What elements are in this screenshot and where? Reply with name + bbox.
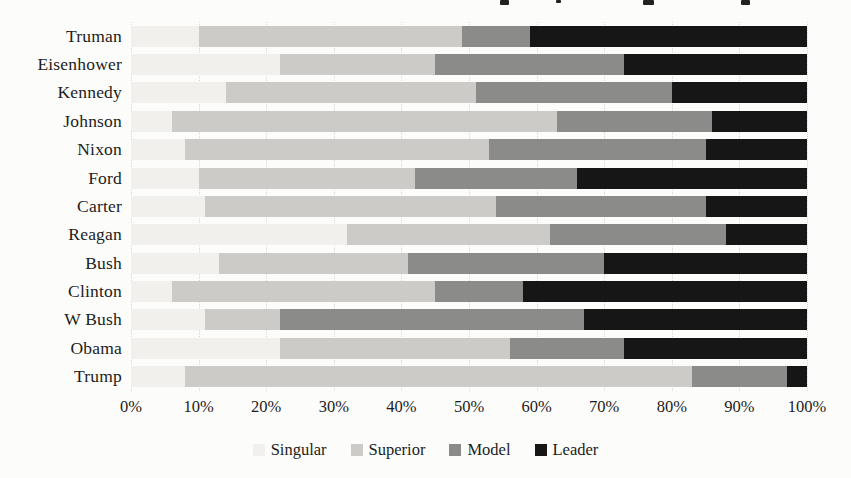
bar-segment-model-w-bush bbox=[280, 309, 584, 330]
bar-segment-leader-kennedy bbox=[672, 82, 807, 103]
bar-segment-superior-clinton bbox=[172, 281, 436, 302]
bar-row-eisenhower bbox=[131, 50, 807, 78]
bar-row-johnson bbox=[131, 107, 807, 135]
bar-segment-superior-trump bbox=[185, 366, 692, 387]
category-label-eisenhower: Eisenhower bbox=[0, 50, 122, 78]
legend-label-model: Model bbox=[467, 440, 510, 460]
bar-segment-model-clinton bbox=[435, 281, 523, 302]
bar-row-obama bbox=[131, 334, 807, 362]
bar-segment-singular-nixon bbox=[131, 139, 185, 160]
x-tick-label-40: 40% bbox=[386, 397, 416, 417]
bar-segment-model-carter bbox=[496, 196, 706, 217]
stacked-bar-johnson bbox=[131, 111, 807, 132]
category-label-bush: Bush bbox=[0, 249, 122, 277]
bar-segment-model-reagan bbox=[550, 224, 726, 245]
category-label-reagan: Reagan bbox=[0, 221, 122, 249]
bar-segment-superior-ford bbox=[199, 168, 415, 189]
stacked-bar-eisenhower bbox=[131, 54, 807, 75]
bar-segment-superior-truman bbox=[199, 26, 463, 47]
bar-segment-leader-clinton bbox=[523, 281, 807, 302]
bar-segment-singular-w-bush bbox=[131, 309, 205, 330]
legend-item-singular: Singular bbox=[253, 440, 327, 460]
category-label-johnson: Johnson bbox=[0, 107, 122, 135]
bar-segment-singular-carter bbox=[131, 196, 205, 217]
stacked-bar-obama bbox=[131, 338, 807, 359]
legend-swatch-model bbox=[449, 444, 461, 456]
bar-segment-leader-obama bbox=[624, 338, 807, 359]
bar-segment-superior-eisenhower bbox=[280, 54, 435, 75]
x-tick-label-20: 20% bbox=[251, 397, 281, 417]
category-label-w-bush: W Bush bbox=[0, 306, 122, 334]
stacked-bar-chart: TrumanEisenhowerKennedyJohnsonNixonFordC… bbox=[0, 0, 851, 478]
stacked-bar-carter bbox=[131, 196, 807, 217]
stacked-bar-kennedy bbox=[131, 82, 807, 103]
bar-segment-singular-obama bbox=[131, 338, 280, 359]
bar-segment-singular-bush bbox=[131, 253, 219, 274]
bar-segment-singular-reagan bbox=[131, 224, 347, 245]
cropped-title-glyph bbox=[643, 0, 654, 5]
bar-segment-model-johnson bbox=[557, 111, 712, 132]
bar-segment-leader-nixon bbox=[706, 139, 807, 160]
gridline-100 bbox=[807, 22, 808, 391]
cropped-title-glyph bbox=[500, 0, 509, 5]
category-axis-labels: TrumanEisenhowerKennedyJohnsonNixonFordC… bbox=[0, 22, 122, 391]
bar-segment-singular-eisenhower bbox=[131, 54, 280, 75]
category-label-obama: Obama bbox=[0, 334, 122, 362]
bar-segment-leader-trump bbox=[787, 366, 807, 387]
bar-row-w-bush bbox=[131, 306, 807, 334]
legend-label-superior: Superior bbox=[369, 440, 426, 460]
x-tick-label-30: 30% bbox=[319, 397, 349, 417]
bar-segment-superior-w-bush bbox=[205, 309, 279, 330]
x-tick-label-60: 60% bbox=[521, 397, 551, 417]
stacked-bar-w-bush bbox=[131, 309, 807, 330]
bar-segment-superior-carter bbox=[205, 196, 496, 217]
legend-item-superior: Superior bbox=[351, 440, 426, 460]
x-tick-label-50: 50% bbox=[454, 397, 484, 417]
bar-row-reagan bbox=[131, 221, 807, 249]
bar-segment-leader-w-bush bbox=[584, 309, 807, 330]
legend-label-singular: Singular bbox=[271, 440, 327, 460]
bar-row-trump bbox=[131, 363, 807, 391]
stacked-bar-trump bbox=[131, 366, 807, 387]
legend: SingularSuperiorModelLeader bbox=[0, 438, 851, 462]
cropped-title-remnant bbox=[0, 0, 851, 6]
bar-segment-superior-nixon bbox=[185, 139, 489, 160]
bar-row-clinton bbox=[131, 277, 807, 305]
bar-segment-leader-reagan bbox=[726, 224, 807, 245]
legend-swatch-singular bbox=[253, 444, 265, 456]
x-tick-label-10: 10% bbox=[183, 397, 213, 417]
bar-row-truman bbox=[131, 22, 807, 50]
stacked-bar-nixon bbox=[131, 139, 807, 160]
x-tick-label-80: 80% bbox=[657, 397, 687, 417]
bar-segment-singular-kennedy bbox=[131, 82, 226, 103]
bar-segment-superior-bush bbox=[219, 253, 408, 274]
bar-row-nixon bbox=[131, 136, 807, 164]
category-label-truman: Truman bbox=[0, 22, 122, 50]
x-axis-tick-labels: 0%10%20%30%40%50%60%70%80%90%100% bbox=[131, 397, 807, 417]
bar-segment-leader-ford bbox=[577, 168, 807, 189]
bar-segment-leader-johnson bbox=[712, 111, 807, 132]
cropped-title-glyph bbox=[556, 0, 561, 3]
bar-segment-leader-truman bbox=[530, 26, 807, 47]
bar-segment-superior-johnson bbox=[172, 111, 557, 132]
bar-row-bush bbox=[131, 249, 807, 277]
legend-label-leader: Leader bbox=[553, 440, 599, 460]
bar-segment-model-truman bbox=[462, 26, 530, 47]
plot-area bbox=[131, 22, 807, 391]
bar-segment-singular-truman bbox=[131, 26, 199, 47]
stacked-bar-clinton bbox=[131, 281, 807, 302]
bar-segment-singular-johnson bbox=[131, 111, 172, 132]
bar-segment-superior-reagan bbox=[347, 224, 550, 245]
category-label-trump: Trump bbox=[0, 363, 122, 391]
stacked-bar-bush bbox=[131, 253, 807, 274]
bar-segment-model-trump bbox=[692, 366, 787, 387]
bar-segment-leader-bush bbox=[604, 253, 807, 274]
cropped-title-glyph bbox=[741, 0, 750, 5]
bar-row-carter bbox=[131, 192, 807, 220]
x-tick-label-70: 70% bbox=[589, 397, 619, 417]
bar-segment-leader-carter bbox=[706, 196, 807, 217]
category-label-kennedy: Kennedy bbox=[0, 79, 122, 107]
bar-segment-model-obama bbox=[510, 338, 625, 359]
bar-segment-model-bush bbox=[408, 253, 604, 274]
legend-swatch-superior bbox=[351, 444, 363, 456]
